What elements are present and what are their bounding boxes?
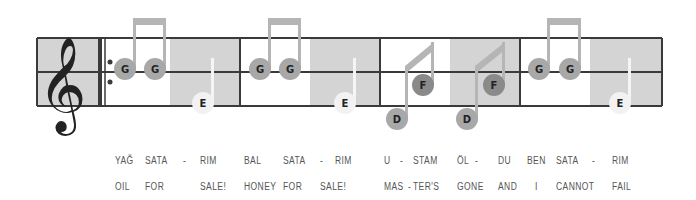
note-g: G — [114, 58, 136, 80]
stem — [405, 66, 408, 119]
music-score: 𝄞 GGEGGEGGEDFDF — [0, 0, 696, 140]
lyric-syllable: SATA — [556, 155, 579, 166]
lyric-syllable: RIM — [335, 155, 352, 166]
lyric-syllable: I — [535, 181, 538, 192]
lyric-syllable: SALE! — [200, 181, 226, 192]
lyric-syllable: - — [592, 155, 595, 166]
note-label: G — [535, 64, 543, 75]
note-g: G — [144, 58, 166, 80]
lyric-syllable: BEN — [527, 155, 546, 166]
lyric-syllable: U — [384, 155, 391, 166]
lyric-syllable: DU — [498, 155, 511, 166]
beam — [133, 18, 165, 25]
lyric-syllable: CANNOT — [556, 181, 594, 192]
note-label: G — [566, 64, 574, 75]
beam — [547, 18, 580, 25]
lyric-syllable: SALE! — [320, 181, 346, 192]
lyric-syllable: OIL — [115, 181, 130, 192]
note-label: D — [393, 114, 401, 125]
note-label: D — [463, 114, 471, 125]
note-label: E — [342, 98, 349, 109]
lyric-syllable: MAS — [384, 181, 404, 192]
note-label: E — [617, 98, 624, 109]
lyric-syllable: RIM — [612, 155, 629, 166]
beam — [405, 42, 434, 74]
lyric-syllable: - — [320, 155, 323, 166]
note-g: G — [559, 58, 581, 80]
lyric-syllable: FAIL — [612, 181, 631, 192]
note-f: F — [483, 74, 505, 96]
note-label: E — [200, 98, 207, 109]
lyric-syllable: SATA — [283, 155, 306, 166]
note-g: G — [528, 58, 550, 80]
lyric-syllable: ÖL — [457, 155, 469, 166]
note-label: F — [491, 80, 498, 91]
lyric-syllable: - — [183, 155, 186, 166]
note-label: G — [151, 64, 159, 75]
repeat-dot — [108, 60, 113, 65]
beam — [268, 18, 300, 25]
lyric-syllable: HONEY — [244, 181, 276, 192]
lyric-syllable: GONE — [457, 181, 484, 192]
note-d: D — [456, 108, 478, 130]
note-label: G — [121, 64, 129, 75]
note-e: E — [609, 92, 631, 114]
note-label: G — [256, 64, 264, 75]
note-label: G — [286, 64, 294, 75]
stem — [475, 66, 478, 119]
note-g: G — [279, 58, 301, 80]
lyric-syllable: RIM — [200, 155, 217, 166]
lyric-syllable: - — [400, 155, 403, 166]
repeat-dot — [108, 80, 113, 85]
note-d: D — [386, 108, 408, 130]
lyric-syllable: TER'S — [413, 181, 439, 192]
lyric-syllable: - — [408, 181, 411, 192]
lyric-syllable: YAĞ — [115, 155, 134, 166]
note-label: F — [420, 80, 427, 91]
note-f: F — [412, 74, 434, 96]
lyric-syllable: AND — [498, 181, 517, 192]
lyric-syllable: SATA — [145, 155, 168, 166]
lyric-syllable: STAM — [413, 155, 438, 166]
note-e: E — [192, 92, 214, 114]
lyric-syllable: - — [475, 155, 478, 166]
note-g: G — [249, 58, 271, 80]
note-e: E — [334, 92, 356, 114]
lyric-syllable: BAL — [244, 155, 261, 166]
lyric-syllable: FOR — [145, 181, 164, 192]
lyric-syllable: FOR — [283, 181, 302, 192]
treble-clef-icon: 𝄞 — [38, 36, 86, 136]
